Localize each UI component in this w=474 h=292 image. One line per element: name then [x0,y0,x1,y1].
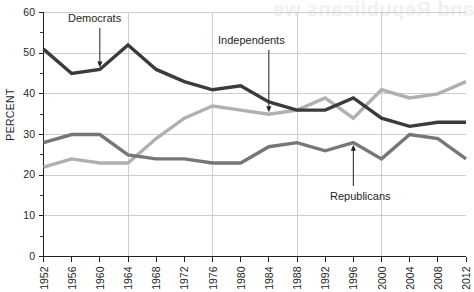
series-line-republicans [44,135,467,163]
x-tick-label-1996: 1996 [347,266,359,290]
y-tick-label-50: 50 [23,46,35,58]
x-tick-label-1984: 1984 [263,266,275,290]
x-axis-tick-labels: 1952195619601964196819721976198019841988… [38,266,473,290]
x-tick-label-1968: 1968 [150,266,162,290]
x-tick-label-1988: 1988 [291,266,303,290]
data-series-group [44,45,467,167]
x-tick-label-1960: 1960 [94,266,106,290]
annotation-label-independents: Independents [218,34,285,46]
annotation-label-democrats: Democrats [68,12,122,24]
y-tick-label-0: 0 [29,250,35,262]
annotation-label-republicans: Republicans [330,190,391,202]
x-tick-label-2004: 2004 [404,266,416,290]
party-identification-line-chart: 0102030405060 19521956196019641968197219… [0,0,474,292]
series-line-democrats [44,45,467,126]
x-tick-label-1952: 1952 [38,266,50,290]
x-tick-label-1964: 1964 [122,266,134,290]
x-axis-ticks [44,257,467,262]
y-tick-label-10: 10 [23,209,35,221]
x-tick-label-1972: 1972 [178,266,190,290]
y-axis-ticks [39,13,44,257]
y-tick-label-30: 30 [23,128,35,140]
y-tick-label-40: 40 [23,87,35,99]
y-axis-title: PERCENT [4,88,16,141]
x-tick-label-1976: 1976 [207,266,219,290]
y-tick-label-20: 20 [23,168,35,180]
x-tick-label-1956: 1956 [66,266,78,290]
x-tick-label-2000: 2000 [376,266,388,290]
x-tick-label-2008: 2008 [432,266,444,290]
x-tick-label-1980: 1980 [235,266,247,290]
chart-container: and Republicans we 0102030405060 1952195… [0,0,474,292]
y-tick-label-60: 60 [23,6,35,18]
annotation-arrow-head-independents [266,106,271,112]
x-tick-label-2012: 2012 [460,266,472,290]
y-axis-tick-labels: 0102030405060 [23,6,35,262]
x-tick-label-1992: 1992 [319,266,331,290]
